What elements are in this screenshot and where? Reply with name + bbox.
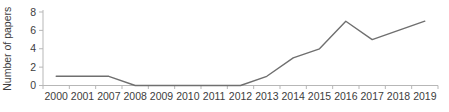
x-tick-label: 2018 [387,90,411,102]
y-tick-label: 2 [30,61,36,73]
x-tick-label: 2001 [71,90,95,102]
line-chart: 0246820002001200720082009201020112012201… [0,0,449,112]
x-tick-label: 2015 [308,90,332,102]
data-line [56,21,425,85]
x-tick-label: 2014 [281,90,305,102]
y-tick-label: 0 [30,79,36,91]
x-tick-label: 2008 [123,90,147,102]
x-tick-label: 2019 [413,90,437,102]
x-tick-label: 2009 [150,90,174,102]
y-axis-title: Number of papers [1,7,13,91]
x-tick-label: 2007 [97,90,121,102]
x-tick-label: 2010 [176,90,200,102]
y-tick-label: 6 [30,24,36,36]
y-tick-label: 8 [30,6,36,18]
x-tick-label: 2011 [203,90,226,102]
x-tick-label: 2013 [255,90,279,102]
chart-canvas: 0246820002001200720082009201020112012201… [0,0,449,112]
y-tick-label: 4 [30,42,36,54]
x-tick-label: 2017 [360,90,384,102]
x-tick-label: 2000 [44,90,68,102]
x-tick-label: 2016 [334,90,358,102]
x-tick-label: 2012 [229,90,253,102]
